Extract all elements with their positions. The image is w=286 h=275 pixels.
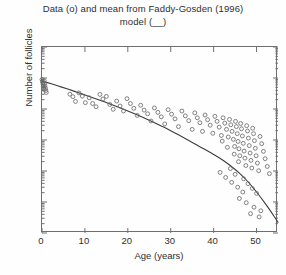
- y-tick-marks: [42, 47, 278, 233]
- x-tick-label: 20: [112, 235, 142, 246]
- chart-title-line-1: Data (o) and mean from Faddy-Gosden (199…: [0, 3, 286, 16]
- x-tick-label: 30: [155, 235, 185, 246]
- x-tick-label: 10: [69, 235, 99, 246]
- x-tick-label: 40: [198, 235, 228, 246]
- x-axis-label: Age (years): [41, 250, 277, 261]
- plot-area: [41, 46, 277, 232]
- figure-canvas: Data (o) and mean from Faddy-Gosden (199…: [0, 0, 286, 275]
- data-point-markers: [40, 77, 271, 218]
- y-axis-label: Number of follicles: [23, 0, 34, 143]
- chart-title: Data (o) and mean from Faddy-Gosden (199…: [0, 3, 286, 28]
- plot-svg: [42, 47, 278, 233]
- chart-title-line-2: model (__): [0, 16, 286, 29]
- x-tick-label: 50: [241, 235, 271, 246]
- x-tick-label: 0: [26, 235, 56, 246]
- x-tick-marks: [42, 47, 257, 233]
